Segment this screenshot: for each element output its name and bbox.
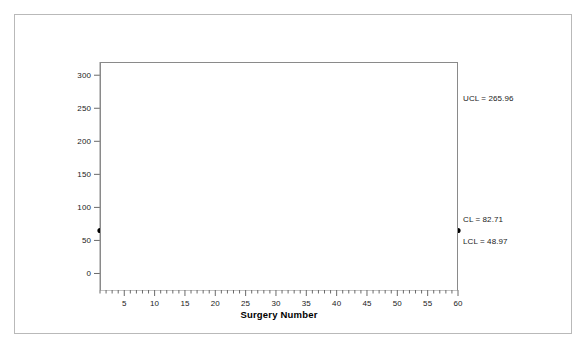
x-tick-label: 40: [332, 299, 341, 308]
x-tick-label: 55: [423, 299, 432, 308]
y-tick-label: 200: [66, 137, 91, 146]
x-tick-label: 5: [122, 299, 127, 308]
y-tick-label: 150: [66, 170, 91, 179]
control-chart-figure: 050100150200250300 510152025303540455055…: [0, 0, 588, 351]
y-tick-label: 300: [66, 71, 91, 80]
ucl-label: UCL = 265.96: [463, 93, 514, 102]
y-tick-label: 100: [66, 203, 91, 212]
y-tick-label: 50: [66, 236, 91, 245]
x-tick-label: 15: [180, 299, 189, 308]
x-tick-label: 35: [302, 299, 311, 308]
y-tick-label: 250: [66, 104, 91, 113]
x-axis-title: Surgery Number: [240, 309, 317, 320]
plot-area: [100, 62, 458, 290]
y-tick-label: 0: [66, 269, 91, 278]
x-tick-label: 60: [453, 299, 462, 308]
cl-label: CL = 82.71: [463, 214, 503, 223]
x-tick-label: 30: [271, 299, 280, 308]
x-tick-label: 10: [150, 299, 159, 308]
x-tick-label: 20: [211, 299, 220, 308]
lcl-label: LCL = 48.97: [463, 237, 508, 246]
x-tick-label: 45: [362, 299, 371, 308]
x-tick-label: 50: [393, 299, 402, 308]
x-tick-label: 25: [241, 299, 250, 308]
